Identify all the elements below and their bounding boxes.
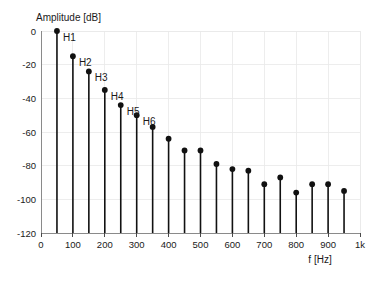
stem-marker [118,102,124,108]
y-axis-tick-label: -20 [22,59,36,70]
stem-marker [86,69,92,75]
stem-marker [309,181,315,187]
stem-marker [325,181,331,187]
harmonic-label: H3 [95,72,108,83]
plot-area: 0-20-40-60-80-100-1200100200300400500600… [0,0,379,284]
y-axis-tick-label: -80 [22,160,36,171]
stem-marker [245,168,251,174]
stem-marker [277,175,283,181]
x-axis-tick-label: 700 [256,239,272,250]
stem-marker [198,148,204,154]
x-axis-tick-label: 500 [193,239,209,250]
harmonic-label: H6 [143,116,156,127]
x-axis-tick-label: 1k [355,239,365,250]
y-axis-tick-label: -60 [22,127,36,138]
stem-marker [182,148,188,154]
y-axis-tick-label: -120 [17,228,36,239]
stem-marker [293,190,299,196]
stem-marker [102,87,108,93]
harmonic-label: H2 [79,57,92,68]
harmonic-label: H4 [111,91,124,102]
x-axis-tick-label: 600 [224,239,240,250]
x-axis-tick-label: 0 [38,239,43,250]
y-axis-tick-label: -40 [22,93,36,104]
harmonic-label: H5 [127,106,140,117]
x-axis-tick-label: 800 [288,239,304,250]
stem-marker [341,188,347,194]
harmonic-label: H1 [63,32,76,43]
x-axis-tick-label: 300 [129,239,145,250]
harmonic-spectrum-chart: 0-20-40-60-80-100-1200100200300400500600… [0,0,379,284]
y-axis-title: Amplitude [dB] [36,12,101,23]
y-axis-tick-label: 0 [31,26,36,37]
stem-marker [230,166,236,172]
stem-marker [70,53,76,59]
stem-marker [166,136,172,142]
stem-marker [214,161,220,167]
y-axis-tick-label: -100 [17,194,36,205]
x-axis-tick-label: 200 [97,239,113,250]
x-axis-tick-label: 900 [320,239,336,250]
x-axis-tick-label: 400 [161,239,177,250]
stem-marker [261,181,267,187]
x-axis-tick-label: 100 [65,239,81,250]
stem-marker [54,28,60,34]
x-axis-title: f [Hz] [308,254,332,265]
